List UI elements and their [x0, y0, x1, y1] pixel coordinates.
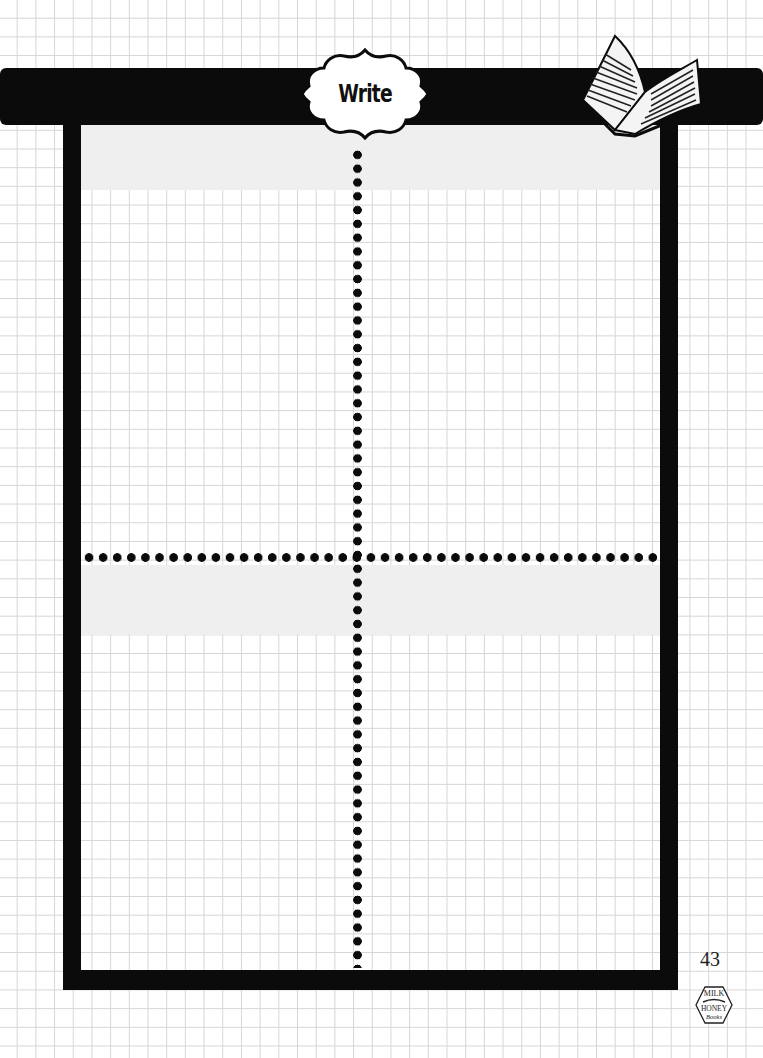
page-number: 43 [700, 948, 720, 971]
open-book-icon [575, 30, 705, 144]
page-title: Write [314, 44, 415, 144]
publisher-logo-icon: MILK HONEY Books [695, 985, 733, 1029]
horizontal-dotted-divider [82, 553, 660, 562]
svg-text:MILK: MILK [704, 989, 725, 998]
svg-text:Books: Books [706, 1013, 722, 1020]
title-label: Write [300, 44, 430, 144]
svg-text:HONEY: HONEY [701, 1004, 728, 1013]
